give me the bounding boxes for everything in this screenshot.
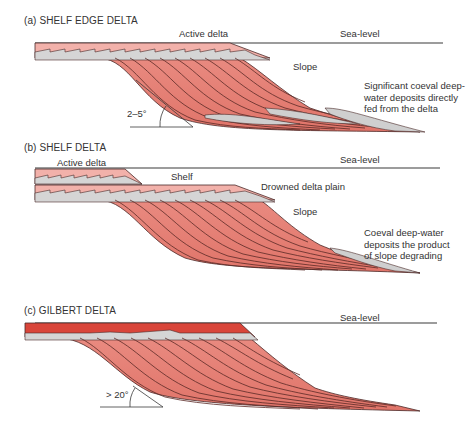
deepwater-note-b-line1: Coeval deep-water — [364, 227, 450, 239]
delta-diagram — [0, 0, 471, 424]
lower-topset-strip-b — [35, 190, 275, 202]
panel-a-title: (a) SHELF EDGE DELTA — [24, 15, 138, 26]
sea-level-label-a: Sea-level — [340, 28, 380, 39]
panel-c-title: (c) GILBERT DELTA — [24, 305, 116, 316]
angle-label-a: 2–5° — [127, 108, 147, 119]
deepwater-note-b-line3: of slope degrading — [364, 250, 450, 262]
sea-level-label-c: Sea-level — [340, 312, 380, 323]
deepwater-note-a-line2: water deposits directly — [364, 92, 465, 104]
panel-b-title: (b) SHELF DELTA — [24, 142, 106, 153]
shelf-label-b: Shelf — [171, 171, 193, 182]
drowned-delta-plain-label-b: Drowned delta plain — [261, 181, 345, 192]
deepwater-note-a-line3: fed from the delta — [364, 103, 465, 115]
active-delta-label-a: Active delta — [179, 28, 228, 39]
panel-c-graphic — [25, 323, 437, 411]
deepwater-note-a-line1: Significant coeval deep- — [364, 80, 465, 92]
sea-level-label-b: Sea-level — [340, 154, 380, 165]
slope-label-a: Slope — [293, 61, 317, 72]
slope-label-b: Slope — [293, 206, 317, 217]
deepwater-note-b: Coeval deep-water deposits the product o… — [364, 227, 450, 262]
angle-label-c: > 20° — [106, 389, 129, 400]
active-delta-label-b: Active delta — [57, 157, 106, 168]
deepwater-note-a: Significant coeval deep- water deposits … — [364, 80, 465, 115]
deepwater-note-b-line2: deposits the product — [364, 239, 450, 251]
